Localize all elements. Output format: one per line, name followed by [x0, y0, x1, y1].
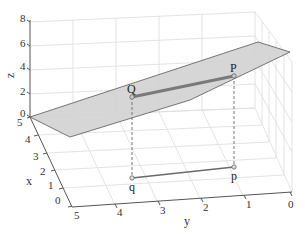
z-axis-label: z [3, 73, 17, 78]
x-axis-label: x [26, 174, 32, 188]
z-axis: 8 6 4 2 0 z [3, 12, 30, 119]
x-tick-3: 3 [33, 150, 39, 162]
y-axis: 5 4 3 2 1 0 y [72, 192, 294, 228]
y-tick-4: 4 [117, 206, 123, 218]
y-axis-label: y [184, 214, 190, 228]
x-tick-0: 0 [55, 194, 61, 206]
3d-plot-figure: 8 6 4 2 0 z Q P q p 5 4 3 2 1 0 x [0, 0, 305, 235]
point-Q-label: Q [127, 82, 136, 96]
z-tick-8: 8 [20, 12, 26, 24]
y-tick-2: 2 [203, 201, 209, 213]
x-tick-4: 4 [25, 133, 31, 145]
point-q-label: q [129, 180, 135, 194]
z-tick-2: 2 [20, 85, 26, 97]
y-tick-5: 5 [74, 209, 80, 221]
y-tick-1: 1 [246, 198, 252, 210]
x-tick-5: 5 [17, 116, 23, 128]
segment-qp [132, 167, 234, 178]
z-tick-6: 6 [20, 37, 26, 49]
z-tick-4: 4 [20, 60, 26, 72]
point-P-label: P [230, 61, 237, 75]
plane-surface [30, 42, 290, 137]
x-tick-2: 2 [40, 165, 46, 177]
point-p-label: p [231, 169, 237, 183]
x-tick-1: 1 [48, 179, 54, 191]
y-tick-0: 0 [288, 198, 294, 210]
y-tick-3: 3 [160, 204, 166, 216]
